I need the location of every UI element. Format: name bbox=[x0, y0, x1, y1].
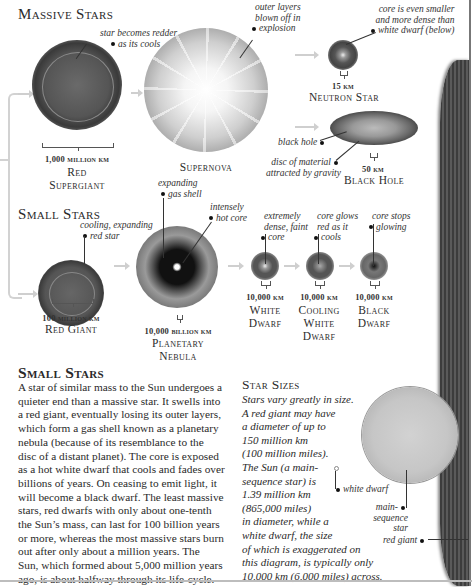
size-bracket bbox=[52, 299, 94, 304]
pointer-dot bbox=[320, 141, 324, 145]
lifecycle-bracket bbox=[8, 93, 22, 299]
size-bracket bbox=[340, 71, 348, 76]
arrow-to-planetary-nebula bbox=[114, 265, 126, 267]
pointer-line bbox=[318, 234, 319, 264]
arrow-to-black-hole bbox=[295, 126, 315, 128]
sun-main-sequence-illustration bbox=[362, 387, 458, 483]
cooling-white-dwarf-label: Cooling White Dwarf bbox=[290, 304, 348, 343]
black-hole-disc-illustration bbox=[330, 111, 418, 145]
annotation-core-smaller: core is even smaller and more dense than… bbox=[368, 4, 455, 36]
annotation-white-dwarf: white dwarf bbox=[333, 484, 388, 495]
arrow-to-red-supergiant bbox=[18, 93, 30, 95]
neutron-star-illustration bbox=[328, 40, 358, 70]
massive-stars-title: Massive Stars bbox=[18, 6, 113, 23]
arrow-to-cooling-white-dwarf bbox=[284, 265, 296, 267]
cooling-white-dwarf-size: 10,000 km bbox=[292, 292, 346, 302]
black-dwarf-size: 10,000 km bbox=[347, 292, 401, 302]
arrow-to-white-dwarf bbox=[228, 265, 240, 267]
white-dwarf-size: 10,000 km bbox=[238, 292, 292, 302]
planetary-nebula-label: Planetary Nebula bbox=[130, 337, 226, 363]
pointer-dot bbox=[401, 506, 405, 510]
red-giant-edge-illustration bbox=[440, 60, 470, 586]
planetary-nebula-illustration bbox=[136, 226, 218, 308]
pointer-dot bbox=[209, 216, 213, 220]
size-bracket bbox=[261, 281, 271, 286]
pointer-line bbox=[346, 32, 376, 45]
pointer-line bbox=[428, 539, 468, 540]
pointer-dot bbox=[334, 161, 338, 165]
red-supergiant-core-ring bbox=[42, 52, 114, 122]
annotation-intensely-hot-core: intensely hot core bbox=[206, 202, 247, 223]
size-bracket bbox=[315, 281, 325, 286]
red-supergiant-label: Red Supergiant bbox=[30, 166, 124, 192]
annotation-core-glows-red: core glows red as it cools bbox=[317, 211, 358, 243]
annotation-extremely-dense: extremely dense, faint core bbox=[264, 211, 308, 243]
size-bracket bbox=[177, 315, 183, 320]
pointer-dot bbox=[252, 27, 256, 31]
bracket-notch bbox=[0, 159, 10, 161]
supernova-rays bbox=[144, 28, 268, 152]
pointer-dot bbox=[336, 488, 340, 492]
black-dwarf-label: Black Dwarf bbox=[347, 304, 401, 330]
red-giant-label: Red Giant bbox=[28, 323, 114, 336]
page-right-edge bbox=[469, 0, 471, 586]
pointer-line bbox=[373, 224, 374, 266]
neutron-star-label: Neutron Star bbox=[298, 91, 390, 104]
pointer-line bbox=[336, 141, 360, 161]
pointer-dot bbox=[111, 42, 115, 46]
article-heading: Small Stars bbox=[18, 364, 104, 382]
annotation-red-giant: red giant bbox=[383, 535, 427, 546]
red-supergiant-size: 1,000 million km bbox=[30, 154, 124, 164]
arrow-to-black-dwarf bbox=[339, 265, 351, 267]
pointer-dot bbox=[420, 539, 424, 543]
pointer-line bbox=[84, 236, 85, 264]
black-hole-size: 50 km bbox=[343, 164, 403, 174]
annotation-main-sequence-star: main- sequence star bbox=[358, 502, 408, 534]
red-giant-size: 100 million km bbox=[28, 313, 114, 323]
annotation-expanding-gas-shell: expanding gas shell bbox=[158, 178, 202, 199]
size-bracket bbox=[370, 153, 378, 158]
black-dwarf-illustration bbox=[360, 252, 388, 280]
red-giant-ring bbox=[49, 272, 95, 316]
black-hole-label: Black Hole bbox=[330, 174, 418, 187]
size-bracket bbox=[370, 281, 380, 286]
arrow-to-red-giant bbox=[18, 293, 34, 295]
pointer-line bbox=[265, 234, 266, 264]
cooling-white-dwarf-illustration bbox=[306, 252, 334, 280]
star-sizes-heading: Star Sizes bbox=[242, 377, 300, 393]
planetary-nebula-size: 10,000 billion km bbox=[130, 326, 226, 336]
pointer-line bbox=[163, 198, 164, 258]
annotation-black-hole: black hole bbox=[278, 137, 327, 148]
neutron-star-size: 15 km bbox=[313, 81, 373, 91]
annotation-core-stops-glowing: core stops glowing bbox=[372, 211, 410, 232]
arrow-to-supernova bbox=[131, 92, 139, 94]
pointer-dot bbox=[161, 192, 165, 196]
supernova-label: Supernova bbox=[160, 161, 252, 174]
arrow-to-neutron-star bbox=[295, 54, 315, 56]
annotation-cooling-expanding: cooling, expanding red star bbox=[80, 220, 153, 241]
article-body: A star of similar mass to the Sun underg… bbox=[18, 381, 250, 587]
size-bracket bbox=[42, 143, 114, 148]
bottom-divider bbox=[0, 580, 472, 582]
annotation-outer-layers: outer layers blown off in explosion bbox=[255, 2, 301, 34]
white-dwarf-label: White Dwarf bbox=[238, 304, 292, 330]
